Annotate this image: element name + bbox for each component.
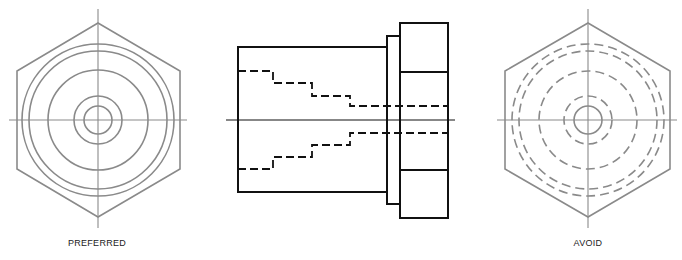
side-view (226, 23, 455, 218)
preferred-end-view (9, 9, 187, 228)
centerlines (9, 9, 187, 228)
centerlines (497, 9, 677, 228)
drawing-canvas (0, 0, 682, 260)
avoid-end-view (497, 9, 677, 228)
preferred-label: PREFERRED (68, 238, 126, 248)
avoid-label: AVOID (574, 238, 603, 248)
